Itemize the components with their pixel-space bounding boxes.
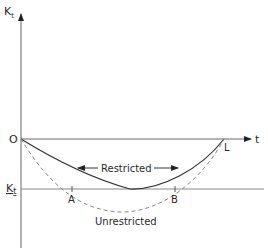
unrestricted-curve — [21, 139, 224, 212]
kt-diagram: Kt O t Kt A B L Restricted Unrestricted — [0, 0, 268, 252]
point-l-label: L — [224, 142, 230, 153]
point-b-label: B — [171, 194, 178, 205]
x-axis-label: t — [255, 133, 260, 146]
kt-level-label: Kt — [6, 182, 16, 196]
y-axis-label: Kt — [4, 5, 14, 20]
point-a-label: A — [68, 194, 75, 205]
unrestricted-label: Unrestricted — [95, 216, 157, 227]
origin-label: O — [9, 133, 18, 146]
restricted-label: Restricted — [101, 163, 152, 174]
